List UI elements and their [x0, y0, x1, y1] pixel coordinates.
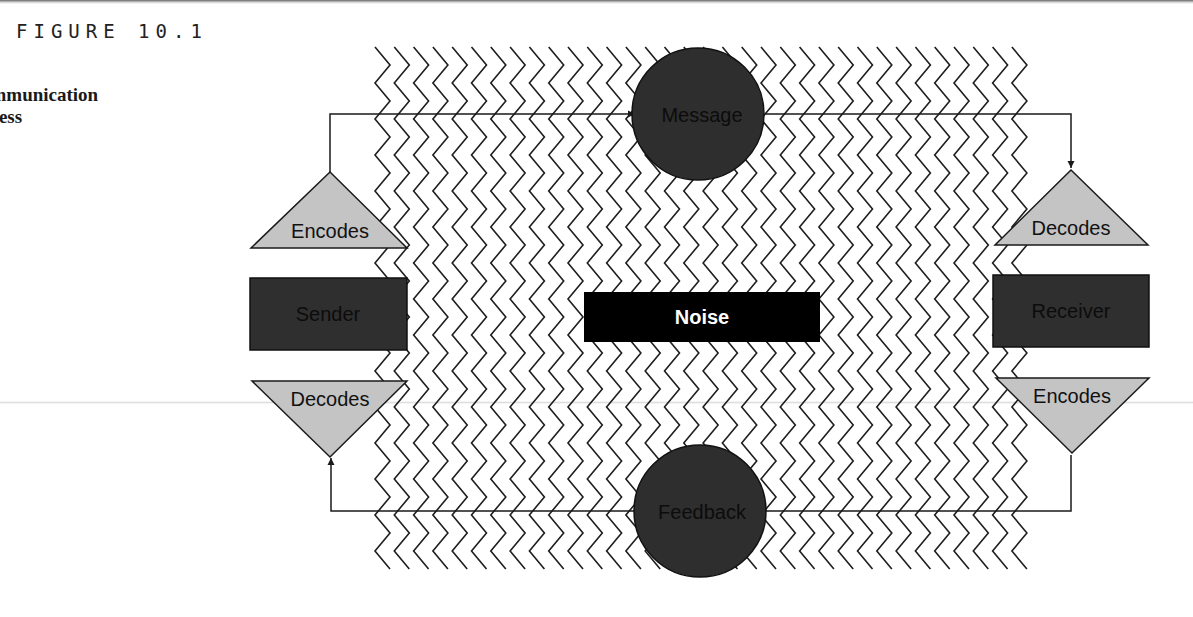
zigzag-line — [819, 47, 834, 569]
message-node: Message — [632, 48, 764, 180]
zigzag-line — [491, 47, 506, 569]
feedback-node: Feedback — [634, 445, 766, 577]
zigzag-line — [973, 47, 988, 569]
zigzag-line — [915, 47, 930, 569]
sender-group: Encodes Sender Decodes — [250, 172, 407, 457]
zigzag-line — [452, 47, 467, 569]
feedback-to-sender-line — [331, 458, 640, 511]
receiver-encodes-label: Encodes — [1033, 385, 1111, 407]
noise-label: Noise — [675, 306, 729, 328]
zigzag-line — [549, 47, 564, 569]
zigzag-line — [510, 47, 525, 569]
zigzag-line — [472, 47, 487, 569]
zigzag-line — [414, 47, 429, 569]
receiver-label: Receiver — [1032, 300, 1111, 322]
feedback-label: Feedback — [658, 501, 747, 523]
message-label: Message — [661, 104, 742, 126]
zigzag-line — [568, 47, 583, 569]
receiver-decodes-label: Decodes — [1032, 217, 1111, 239]
zigzag-line — [529, 47, 544, 569]
zigzag-line — [935, 47, 950, 569]
receiver-group: Decodes Receiver Encodes — [993, 170, 1149, 453]
zigzag-line — [838, 47, 853, 569]
zigzag-line — [896, 47, 911, 569]
zigzag-line — [858, 47, 873, 569]
communication-process-diagram: Message Feedback Noise Encodes Sender De… — [0, 0, 1193, 617]
zigzag-line — [433, 47, 448, 569]
zigzag-line — [954, 47, 969, 569]
noise-node: Noise — [584, 292, 820, 342]
sender-decodes-label: Decodes — [291, 388, 370, 410]
zigzag-line — [877, 47, 892, 569]
sender-encodes-label: Encodes — [291, 220, 369, 242]
sender-label: Sender — [296, 303, 361, 325]
